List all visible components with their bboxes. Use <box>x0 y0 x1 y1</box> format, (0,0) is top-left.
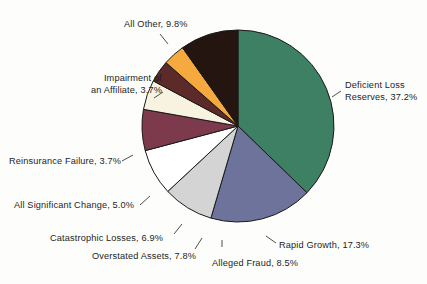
leader-line-overstated-assets <box>195 238 202 249</box>
leader-line-catastrophic-losses <box>174 224 182 234</box>
slice-label-overstated-assets: Overstated Assets, 7.8% <box>92 251 196 263</box>
leader-line-all-other <box>160 34 168 44</box>
pie-slice-group <box>142 30 334 222</box>
slice-label-rapid-growth: Rapid Growth, 17.3% <box>279 240 369 252</box>
slice-label-impairment-of-an-affiliate: Impairment of an Affiliate, 3.7% <box>50 73 162 96</box>
slice-label-line-2: Reserves, 37.2% <box>345 92 417 102</box>
slice-label-all-other: All Other, 9.8% <box>124 19 188 31</box>
slice-label-all-significant-change: All Significant Change, 5.0% <box>14 200 134 212</box>
slice-label-line-2: an Affiliate, 3.7% <box>91 85 162 95</box>
leader-line-reinsurance-failure <box>122 155 133 161</box>
slice-label-deficient-loss-reserves: Deficient Loss Reserves, 37.2% <box>345 80 425 103</box>
slice-label-catastrophic-losses: Catastrophic Losses, 6.9% <box>50 233 163 245</box>
pie-chart-figure: Deficient Loss Reserves, 37.2% All Other… <box>0 0 427 284</box>
leader-line-deficient-loss-reserves <box>332 91 341 97</box>
leader-line-all-significant-change <box>140 196 150 205</box>
leader-line-rapid-growth <box>266 236 276 243</box>
slice-label-line-1: Deficient Loss <box>345 80 405 90</box>
slice-label-alleged-fraud: Alleged Fraud, 8.5% <box>212 258 298 270</box>
slice-label-line-1: Impairment of <box>104 73 162 83</box>
slice-label-reinsurance-failure: Reinsurance Failure, 3.7% <box>9 156 121 168</box>
